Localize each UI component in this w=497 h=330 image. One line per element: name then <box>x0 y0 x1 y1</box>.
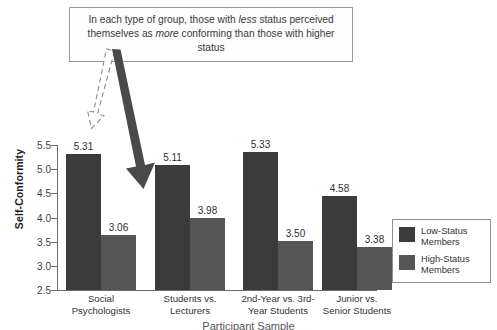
bar-value-label: 3.50 <box>286 228 305 239</box>
y-axis-tick-label: 5.5 <box>27 140 51 151</box>
x-axis-category-label: Students vs.Lecturers <box>140 293 240 317</box>
y-axis-tick-label: 4.5 <box>27 188 51 199</box>
y-axis-tick-label: 4.0 <box>27 212 51 223</box>
legend-swatch-high-status <box>399 255 415 270</box>
bar-value-label: 5.31 <box>74 141 93 152</box>
x-axis-category-label: SocialPsychologists <box>51 293 151 317</box>
bar-high-status <box>278 241 313 290</box>
y-axis-line <box>57 145 58 291</box>
x-axis-category-label-line: Social <box>51 293 151 305</box>
legend-item: Low-Status Members <box>399 226 485 248</box>
y-axis-title: Self-Conformity <box>13 139 25 239</box>
y-axis-tick-label: 2.5 <box>27 285 51 296</box>
bar-value-label: 4.58 <box>330 183 349 194</box>
legend-item: High-Status Members <box>399 254 485 276</box>
bar-low-status <box>322 196 357 290</box>
bar-high-status <box>101 235 136 290</box>
y-axis-tick-label: 5.0 <box>27 164 51 175</box>
y-axis-tick-label: 3.5 <box>27 236 51 247</box>
x-axis-category-label-line: Lecturers <box>140 305 240 317</box>
x-axis-category-label: Junior vs.Senior Students <box>307 293 407 317</box>
y-axis-tick-mark <box>51 145 57 146</box>
x-axis-line <box>57 290 377 291</box>
x-axis-category-label-line: Junior vs. <box>307 293 407 305</box>
x-axis-category-label-line: Senior Students <box>307 305 407 317</box>
y-axis-tick-mark <box>51 290 57 291</box>
y-axis-tick-mark <box>51 169 57 170</box>
y-axis-tick-mark <box>51 242 57 243</box>
bar-value-label: 3.06 <box>109 222 128 233</box>
bar-value-label: 3.38 <box>365 234 384 245</box>
bar-value-label: 3.98 <box>198 205 217 216</box>
y-axis-tick-label: 3.0 <box>27 260 51 271</box>
y-axis-tick-mark <box>51 218 57 219</box>
legend-label: Low-Status Members <box>421 226 485 248</box>
x-axis-category-label-line: Psychologists <box>51 305 151 317</box>
bar-low-status <box>66 154 101 290</box>
bar-low-status <box>155 165 190 290</box>
y-axis-tick-mark <box>51 266 57 267</box>
legend-swatch-low-status <box>399 227 415 242</box>
bar-high-status <box>357 247 392 290</box>
bar-high-status <box>190 218 225 290</box>
y-axis-tick-mark <box>51 193 57 194</box>
legend-label: High-Status Members <box>421 254 485 276</box>
bar-value-label: 5.11 <box>163 152 182 163</box>
x-axis-title: Participant Sample <box>0 320 497 330</box>
bar-low-status <box>243 152 278 290</box>
bar-value-label: 5.33 <box>251 139 270 150</box>
chart-legend: Low-Status MembersHigh-Status Members <box>392 219 491 283</box>
x-axis-category-label-line: Students vs. <box>140 293 240 305</box>
